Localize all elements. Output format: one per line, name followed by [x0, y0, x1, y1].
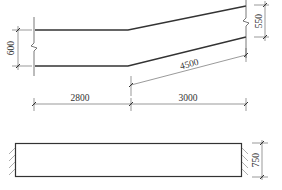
- beam-drawing: 600 550 4500 28: [0, 0, 282, 190]
- plan-view: 750: [9, 140, 268, 180]
- dimension-label-550: 550: [254, 14, 264, 29]
- elevation-view: 600 550 4500 28: [6, 0, 269, 111]
- dimension-label-4500: 4500: [179, 57, 200, 72]
- right-support-hatch: [242, 148, 248, 175]
- dimension-label-750: 750: [251, 153, 261, 168]
- left-support-hatch: [9, 148, 15, 175]
- dimension-label-2800: 2800: [71, 93, 90, 103]
- dimension-label-600: 600: [6, 41, 16, 56]
- dimension-750: 750: [251, 140, 268, 180]
- beam-bottom-edge: [35, 37, 246, 66]
- span-dimensions: 2800 3000: [32, 93, 248, 111]
- left-break-line: [31, 17, 37, 76]
- dimension-550: 550: [254, 1, 269, 41]
- beam-top-edge: [35, 6, 246, 30]
- dimension-4500: 4500: [129, 48, 248, 96]
- beam-plan-rect: [16, 144, 242, 177]
- dimension-label-3000: 3000: [179, 93, 198, 103]
- dimension-600: 600: [6, 26, 32, 70]
